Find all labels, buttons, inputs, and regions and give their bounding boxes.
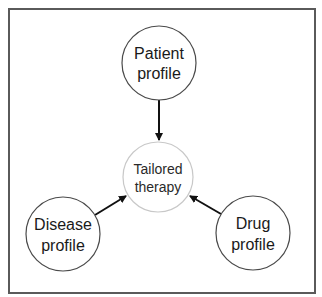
node-patient-line2: profile	[137, 65, 181, 82]
node-therapy-line1: Tailored	[133, 161, 182, 177]
diagram-canvas: Patient profile Tailored therapy Disease…	[0, 0, 322, 297]
node-tailored-therapy: Tailored therapy	[123, 142, 193, 212]
node-drug-profile: Drug profile	[216, 196, 290, 270]
node-therapy-line2: therapy	[135, 179, 182, 195]
node-drug-line1: Drug	[236, 215, 271, 232]
node-patient-line1: Patient	[134, 45, 184, 62]
node-disease-line1: Disease	[34, 216, 92, 233]
node-disease-profile: Disease profile	[26, 197, 100, 271]
node-drug-line2: profile	[231, 236, 275, 253]
node-patient-profile: Patient profile	[122, 26, 196, 100]
node-disease-line2: profile	[41, 237, 85, 254]
